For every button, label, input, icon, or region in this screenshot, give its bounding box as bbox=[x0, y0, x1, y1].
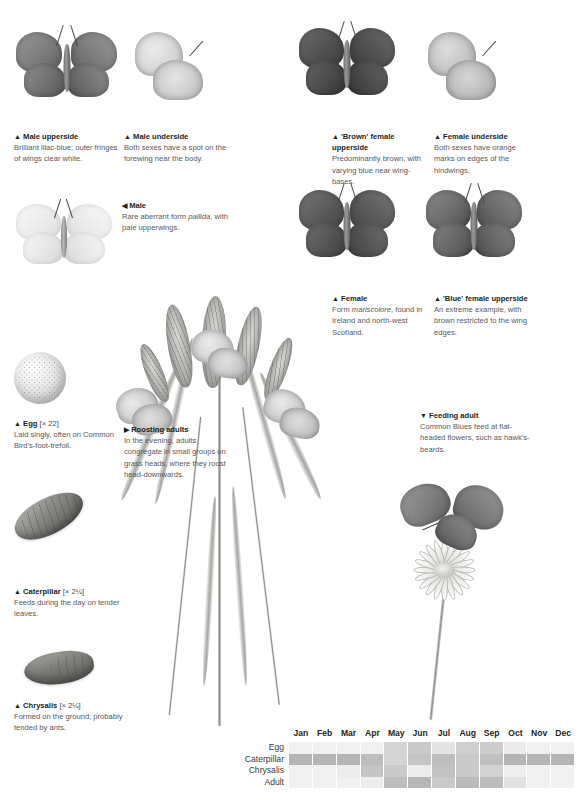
triangle-right-icon: ▶ bbox=[124, 426, 129, 433]
chart-cell-caterpillar-jun bbox=[408, 754, 432, 766]
caption-male-underside: ▲ Male underside Both sexes have a spot … bbox=[124, 131, 234, 165]
caption-body: An extreme example, with brown restricte… bbox=[434, 304, 538, 338]
chrysalis-illustration bbox=[22, 647, 96, 688]
chart-cell-chrysalis-dec bbox=[551, 765, 575, 777]
chart-cell-egg-aug bbox=[456, 742, 480, 754]
chart-cell-adult-jan bbox=[289, 777, 313, 789]
chart-month-mar: Mar bbox=[337, 728, 361, 742]
chart-cell-caterpillar-apr bbox=[361, 754, 385, 766]
chart-cell-chrysalis-nov bbox=[527, 765, 551, 777]
chart-cell-adult-aug bbox=[456, 777, 480, 789]
chart-cell-caterpillar-jul bbox=[432, 754, 456, 766]
roosting-butterfly-right bbox=[260, 384, 330, 442]
chart-month-feb: Feb bbox=[313, 728, 337, 742]
chart-cell-caterpillar-may bbox=[384, 754, 408, 766]
roosting-butterfly-top bbox=[186, 326, 256, 384]
chart-row-label-adult: Adult bbox=[243, 777, 289, 789]
triangle-up-icon: ▲ bbox=[14, 702, 21, 709]
caption-caterpillar: ▲ Caterpillar [× 2¼] Feeds during the da… bbox=[14, 586, 126, 620]
caption-male-upperside: ▲ Male upperside Brilliant lilac-blue; o… bbox=[14, 131, 119, 165]
form-name-pallida: pallida bbox=[188, 212, 210, 221]
chart-cell-egg-mar bbox=[337, 742, 361, 754]
caption-body-before: Form bbox=[332, 305, 352, 314]
chart-cell-caterpillar-sep bbox=[480, 754, 504, 766]
caption-body: Both sexes have a spot on the forewing n… bbox=[124, 142, 234, 164]
chart-cell-egg-jul bbox=[432, 742, 456, 754]
triangle-up-icon: ▲ bbox=[434, 295, 441, 302]
caterpillar-illustration bbox=[8, 483, 90, 550]
triangle-up-icon: ▲ bbox=[14, 588, 21, 595]
caption-blue-female-upperside: ▲ 'Blue' female upperside An extreme exa… bbox=[434, 293, 538, 338]
chart-corner bbox=[243, 728, 289, 742]
caption-magnification: [× 2¼] bbox=[59, 701, 80, 710]
caption-heading: Roosting adults bbox=[131, 425, 188, 434]
specimen-male-upperside bbox=[14, 18, 119, 118]
caption-body: Brilliant lilac-blue; outer fringes of w… bbox=[14, 142, 119, 164]
caption-body: Feeds during the day on tender leaves. bbox=[14, 597, 126, 619]
caption-body-before: Rare aberrant form bbox=[122, 212, 188, 221]
caption-egg: ▲ Egg [× 22] Laid singly, often on Commo… bbox=[14, 418, 118, 452]
phenology-chart: JanFebMarAprMayJunJulAugSepOctNovDecEggC… bbox=[243, 728, 575, 788]
chart-month-nov: Nov bbox=[527, 728, 551, 742]
caption-heading: Chrysalis bbox=[23, 701, 57, 710]
caption-body: Formed on the ground; probably tended by… bbox=[14, 711, 126, 733]
chart-cell-adult-jun bbox=[408, 777, 432, 789]
caption-heading: Male upperside bbox=[23, 132, 78, 141]
feeding-butterfly bbox=[398, 482, 508, 558]
triangle-up-icon: ▲ bbox=[332, 133, 339, 140]
chart-cell-adult-nov bbox=[527, 777, 551, 789]
chart-month-jan: Jan bbox=[289, 728, 313, 742]
triangle-down-icon: ▼ bbox=[420, 412, 427, 419]
chart-row-label-chrysalis: Chrysalis bbox=[243, 765, 289, 777]
daisy-head bbox=[384, 530, 504, 610]
chart-cell-chrysalis-feb bbox=[313, 765, 337, 777]
caption-male-pallida: ◀ Male Rare aberrant form pallida, with … bbox=[122, 200, 232, 234]
chart-cell-egg-apr bbox=[361, 742, 385, 754]
specimen-blue-female-upperside bbox=[424, 178, 524, 278]
chart-cell-chrysalis-oct bbox=[504, 765, 528, 777]
chart-cell-egg-sep bbox=[480, 742, 504, 754]
specimen-male-underside bbox=[131, 22, 223, 114]
chart-cell-adult-sep bbox=[480, 777, 504, 789]
chart-cell-adult-apr bbox=[361, 777, 385, 789]
triangle-up-icon: ▲ bbox=[14, 133, 21, 140]
chart-month-jun: Jun bbox=[408, 728, 432, 742]
caption-body: Common Blues feed at flat-headed flowers… bbox=[420, 421, 532, 455]
caption-heading: Male underside bbox=[133, 132, 188, 141]
caption-chrysalis: ▲ Chrysalis [× 2¼] Formed on the ground;… bbox=[14, 700, 126, 734]
chart-cell-caterpillar-aug bbox=[456, 754, 480, 766]
caption-feeding-adult: ▼ Feeding adult Common Blues feed at fla… bbox=[420, 410, 532, 455]
caption-body: In the evening, adults congregate in sma… bbox=[124, 435, 236, 480]
caption-heading: 'Blue' female upperside bbox=[443, 294, 528, 303]
caption-female-mariscolore: ▲ Female Form mariscolore, found in Irel… bbox=[332, 293, 428, 338]
chart-month-dec: Dec bbox=[551, 728, 575, 742]
chart-cell-caterpillar-feb bbox=[313, 754, 337, 766]
caption-heading: Male bbox=[129, 201, 146, 210]
chart-cell-chrysalis-jan bbox=[289, 765, 313, 777]
chart-cell-egg-jan bbox=[289, 742, 313, 754]
caption-heading: Egg bbox=[23, 419, 37, 428]
chart-cell-chrysalis-jul bbox=[432, 765, 456, 777]
specimen-brown-female-upperside bbox=[297, 16, 397, 116]
grass-plant-illustration bbox=[110, 296, 340, 726]
specimen-male-pallida bbox=[14, 196, 114, 274]
chart-cell-egg-oct bbox=[504, 742, 528, 754]
chart-cell-chrysalis-apr bbox=[361, 765, 385, 777]
triangle-up-icon: ▲ bbox=[124, 133, 131, 140]
caption-heading: Female underside bbox=[443, 132, 508, 141]
chart-month-oct: Oct bbox=[504, 728, 528, 742]
chart-cell-adult-dec bbox=[551, 777, 575, 789]
caption-female-underside: ▲ Female underside Both sexes have orang… bbox=[434, 131, 538, 176]
chart-cell-caterpillar-dec bbox=[551, 754, 575, 766]
caption-magnification: [× 2¼] bbox=[63, 587, 84, 596]
field-guide-page: ▲ Male upperside Brilliant lilac-blue; o… bbox=[0, 0, 577, 803]
hawksbeard-flower-illustration bbox=[374, 480, 554, 720]
triangle-up-icon: ▲ bbox=[434, 133, 441, 140]
chart-month-apr: Apr bbox=[361, 728, 385, 742]
chart-month-sep: Sep bbox=[480, 728, 504, 742]
chart-cell-adult-may bbox=[384, 777, 408, 789]
chart-cell-adult-oct bbox=[504, 777, 528, 789]
chart-cell-egg-feb bbox=[313, 742, 337, 754]
chart-cell-chrysalis-mar bbox=[337, 765, 361, 777]
caption-body: Laid singly, often on Common Bird's-foot… bbox=[14, 429, 118, 451]
